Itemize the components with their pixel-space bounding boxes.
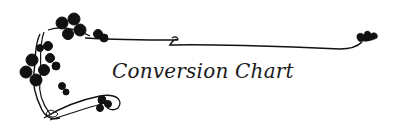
decorative-banner: Conversion Chart	[0, 0, 417, 136]
banner-title: Conversion Chart	[112, 59, 294, 83]
